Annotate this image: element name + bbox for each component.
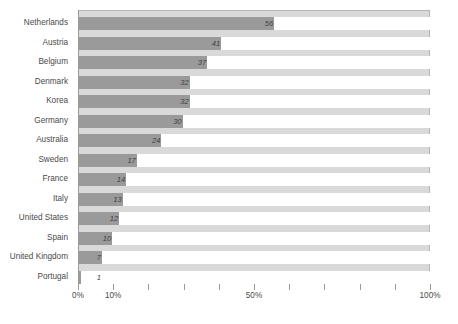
bar-value-label: 7	[79, 251, 101, 264]
category-label: Portugal	[38, 270, 69, 283]
x-axis-tick	[219, 284, 220, 290]
category-label: Italy	[53, 192, 68, 205]
x-axis-tick	[395, 284, 396, 290]
bar-track	[184, 115, 430, 128]
category-label: Germany	[34, 114, 68, 127]
bar-row: 13	[78, 193, 430, 206]
category-label: United States	[19, 211, 68, 224]
bar-value-label: 13	[100, 193, 122, 206]
category-axis: NetherlandsAustriaBelgiumDenmarkKoreaGer…	[0, 10, 74, 284]
bar-value-label: 32	[167, 95, 189, 108]
bar-row: 7	[78, 251, 430, 264]
bar-value-label: 30	[160, 115, 182, 128]
bar-track	[191, 95, 430, 108]
x-axis-tick	[184, 284, 185, 290]
bar-row: 56	[78, 17, 430, 30]
category-label: Sweden	[38, 153, 68, 166]
bar-row: 32	[78, 76, 430, 89]
bar-row: 41	[78, 37, 430, 50]
bar-row: 30	[78, 115, 430, 128]
bar[interactable]	[78, 17, 275, 30]
bar-value-label: 1	[79, 271, 101, 284]
bar-value-label: 10	[89, 232, 111, 245]
category-label: Spain	[47, 231, 68, 244]
bar-track	[124, 193, 430, 206]
bar-track	[208, 56, 430, 69]
bar-track	[103, 251, 430, 264]
bar-track	[82, 271, 430, 284]
x-axis-tick-label: 10%	[105, 291, 121, 300]
category-label: Austria	[43, 36, 68, 49]
bar-track	[162, 134, 430, 147]
x-axis-tick	[78, 284, 79, 290]
x-axis-tick	[360, 284, 361, 290]
bar-value-label: 12	[96, 212, 118, 225]
category-label: Korea	[46, 94, 68, 107]
x-axis-tick	[148, 284, 149, 290]
bar-value-label: 56	[251, 17, 273, 30]
value-axis-baseline	[78, 10, 79, 284]
x-axis-tick-label: 100%	[420, 291, 441, 300]
bar-row: 10	[78, 232, 430, 245]
x-axis-tick	[113, 284, 114, 290]
bar-row: 24	[78, 134, 430, 147]
plot-area: 56413732323024171413121071	[78, 10, 430, 284]
x-axis-tick-label: 0%	[72, 291, 84, 300]
bar-row: 37	[78, 56, 430, 69]
bar-track	[120, 212, 430, 225]
bar-track	[113, 232, 430, 245]
category-label: Belgium	[38, 55, 68, 68]
bar-value-label: 37	[184, 56, 206, 69]
bar-track	[275, 17, 430, 30]
bar-track	[222, 37, 430, 50]
category-label: France	[43, 172, 68, 185]
bar-track	[127, 173, 430, 186]
x-axis-tick-label: 50%	[246, 291, 262, 300]
x-axis-tick	[289, 284, 290, 290]
category-label: Denmark	[35, 75, 68, 88]
bar-value-label: 17	[114, 154, 136, 167]
category-label: Netherlands	[24, 16, 68, 29]
bar-value-label: 24	[138, 134, 160, 147]
bar-value-label: 14	[103, 173, 125, 186]
bar-value-label: 32	[167, 76, 189, 89]
bar-row: 1	[78, 271, 430, 284]
bar-row: 17	[78, 154, 430, 167]
bar-row: 12	[78, 212, 430, 225]
x-axis-tick	[254, 284, 255, 290]
bar-track	[191, 76, 430, 89]
category-label: Australia	[36, 133, 68, 146]
bar-value-label: 41	[198, 37, 220, 50]
category-label: United Kingdom	[10, 250, 68, 263]
bar-track	[138, 154, 430, 167]
bar-row: 14	[78, 173, 430, 186]
x-axis: 0%10%50%100%	[78, 284, 431, 324]
x-axis-tick	[430, 284, 431, 290]
bar-chart: NetherlandsAustriaBelgiumDenmarkKoreaGer…	[0, 0, 458, 324]
bar-row: 32	[78, 95, 430, 108]
x-axis-tick	[324, 284, 325, 290]
